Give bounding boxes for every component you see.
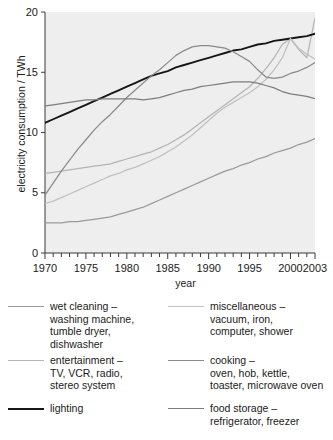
legend-column-left: wet cleaning – washing machine, tumble d…: [2, 296, 168, 440]
legend-line-icon: [168, 408, 204, 409]
legend-item-label: cooking – oven, hob, kettle, toaster, mi…: [210, 354, 333, 392]
legend-line-icon: [8, 306, 44, 307]
x-tick-label: 1995: [237, 262, 261, 274]
x-tick-label: 1990: [196, 262, 220, 274]
x-axis-label: year: [42, 277, 329, 289]
x-tick-label: 2000: [278, 262, 302, 274]
legend-item-label: miscellaneous – vacuum, iron, computer, …: [210, 300, 333, 338]
legend-column-right: miscellaneous – vacuum, iron, computer, …: [162, 296, 328, 440]
x-tick-label: 1985: [155, 262, 179, 274]
y-axis-label: electricity consumption / TWh: [15, 34, 27, 214]
y-tick-label: 10: [26, 126, 38, 138]
plot-background: [45, 12, 315, 253]
y-tick-label: 15: [26, 66, 38, 78]
legend-item-label: entertainment – TV, VCR, radio, stereo s…: [50, 354, 168, 392]
legend-item-label: food storage – refrigerator, freezer: [210, 402, 333, 427]
legend-line-icon: [8, 408, 44, 410]
legend-item-label: lighting: [50, 402, 168, 415]
legend-line-icon: [168, 360, 204, 361]
line-chart: 0510152019701975198019851990199520002003…: [0, 0, 333, 292]
legend-item-label: wet cleaning – washing machine, tumble d…: [50, 300, 168, 350]
figure: 0510152019701975198019851990199520002003…: [0, 0, 333, 440]
x-tick-label: 1975: [74, 262, 98, 274]
legend-line-icon: [8, 360, 44, 361]
chart-legend: wet cleaning – washing machine, tumble d…: [0, 296, 333, 440]
x-tick-label: 1970: [33, 262, 57, 274]
legend-line-icon: [168, 306, 204, 307]
y-tick-label: 0: [32, 247, 38, 259]
y-tick-label: 20: [26, 6, 38, 18]
x-tick-label: 2003: [303, 262, 327, 274]
y-tick-label: 5: [32, 186, 38, 198]
plot-canvas: 0510152019701975198019851990199520002003: [0, 0, 333, 292]
x-tick-label: 1980: [115, 262, 139, 274]
